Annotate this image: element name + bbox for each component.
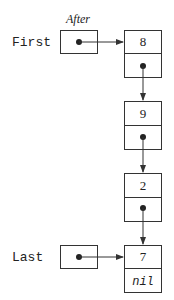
caption-after: After	[65, 12, 90, 26]
node-8: 8	[125, 31, 162, 101]
first-label: First	[12, 35, 51, 50]
node-value: 2	[140, 178, 147, 193]
nil-terminator: nil	[132, 275, 154, 289]
node-2: 2	[125, 174, 162, 245]
node-9: 9	[125, 102, 162, 173]
linked-list-diagram: After First 8 9 2 7 nil Last	[0, 0, 174, 300]
node-value: 9	[140, 106, 147, 121]
last-label: Last	[12, 250, 43, 265]
node-value: 7	[140, 249, 147, 264]
node-7: 7 nil	[125, 246, 162, 293]
node-value: 8	[140, 34, 147, 49]
